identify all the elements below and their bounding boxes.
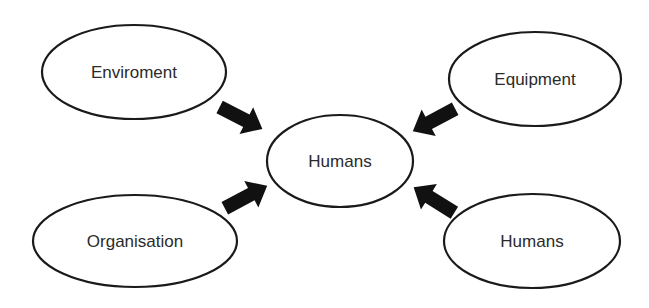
arrow-organisation-to-humans-icon [218, 172, 274, 221]
node-enviroment: Enviroment [42, 25, 226, 119]
enviroment-label: Enviroment [91, 63, 177, 82]
arrow-humans-to-humans-icon [406, 175, 463, 226]
humans-center-label: Humans [308, 152, 371, 171]
humans-outer-label: Humans [500, 232, 563, 251]
equipment-label: Equipment [494, 70, 576, 89]
node-equipment: Equipment [449, 32, 621, 126]
node-organisation: Organisation [33, 195, 237, 287]
node-humans-center: Humans [267, 115, 413, 207]
organisation-label: Organisation [87, 232, 183, 251]
node-humans-outer: Humans [444, 194, 620, 288]
diagram-canvas: Enviroment Equipment Organisation Humans… [0, 0, 649, 308]
arrow-equipment-to-humans-icon [406, 95, 462, 144]
arrow-enviroment-to-humans-icon [213, 94, 269, 143]
